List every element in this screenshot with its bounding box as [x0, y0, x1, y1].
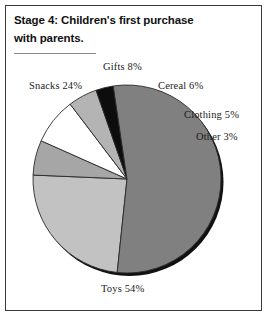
slice-label-other: Other 3% [196, 131, 238, 142]
pie-slice-snacks[interactable] [33, 175, 127, 272]
slice-label-gifts: Gifts 8% [103, 61, 142, 72]
slice-label-toys: Toys 54% [101, 283, 144, 294]
slice-label-snacks: Snacks 24% [29, 80, 82, 91]
chart-plot-area [0, 0, 257, 306]
slice-label-clothing: Clothing 5% [184, 109, 239, 120]
pie-svg [0, 0, 257, 306]
slice-label-cereal: Cereal 6% [158, 80, 203, 91]
pie-chart-figure: Stage 4: Children's first purchase with … [0, 0, 267, 316]
